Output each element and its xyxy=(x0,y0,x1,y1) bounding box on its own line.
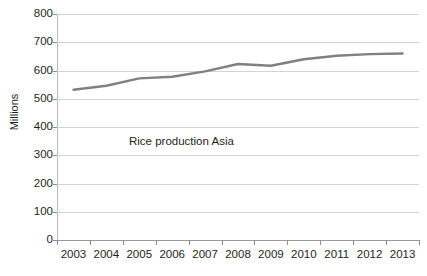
chart-container: Millions 0100200300400500600700800 20032… xyxy=(0,0,427,276)
gridline xyxy=(57,14,419,15)
gridline xyxy=(57,184,419,185)
y-axis-ticks: 0100200300400500600700800 xyxy=(0,0,53,276)
x-axis-tick-mark xyxy=(156,240,157,245)
x-axis-tick-mark xyxy=(353,240,354,245)
y-axis-tick-label: 700 xyxy=(3,36,53,48)
x-axis-tick-mark xyxy=(287,240,288,245)
x-axis-tick-mark xyxy=(123,240,124,245)
y-axis-tick-label: 500 xyxy=(3,93,53,105)
gridline xyxy=(57,42,419,43)
y-axis-tick-label: 800 xyxy=(3,8,53,20)
x-axis-tick-mark xyxy=(386,240,387,245)
x-axis-tick-mark xyxy=(189,240,190,245)
gridline xyxy=(57,240,419,241)
gridline xyxy=(57,127,419,128)
x-axis-tick-mark xyxy=(254,240,255,245)
chart-annotation: Rice production Asia xyxy=(129,135,234,147)
gridline xyxy=(57,212,419,213)
y-axis-tick-label: 100 xyxy=(3,206,53,218)
x-axis-tick-mark xyxy=(419,240,420,245)
y-axis-tick-label: 400 xyxy=(3,121,53,133)
y-axis-tick-label: 300 xyxy=(3,149,53,161)
y-axis-tick-label: 600 xyxy=(3,65,53,77)
y-axis-tick-label: 200 xyxy=(3,178,53,190)
gridline xyxy=(57,71,419,72)
x-axis-tick-label: 2013 xyxy=(383,249,423,261)
y-axis-tick-label: 0 xyxy=(3,234,53,246)
x-axis-tick-mark xyxy=(222,240,223,245)
x-axis-tick-mark xyxy=(90,240,91,245)
x-axis-tick-mark xyxy=(57,240,58,245)
plot-area xyxy=(57,14,419,240)
gridline xyxy=(57,155,419,156)
gridline xyxy=(57,99,419,100)
x-axis-tick-mark xyxy=(320,240,321,245)
